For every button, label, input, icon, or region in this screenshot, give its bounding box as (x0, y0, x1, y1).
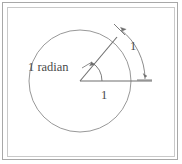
arc-length-label: 1 (130, 39, 136, 53)
arc-length-measure-curve (121, 30, 145, 79)
figure-container: 1 radian 1 1 (0, 0, 182, 164)
radius-length-label: 1 (101, 88, 107, 102)
terminal-radius-line (80, 37, 117, 81)
angle-label-text: 1 radian (28, 60, 69, 74)
radian-diagram: 1 radian 1 1 (0, 0, 182, 164)
